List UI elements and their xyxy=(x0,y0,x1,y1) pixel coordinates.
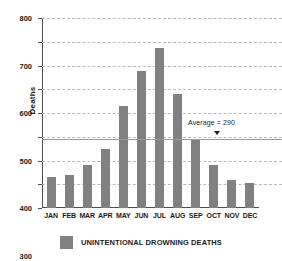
x-tick-label-may: MAY xyxy=(116,212,131,219)
drowning-deaths-bar-chart: Deaths 0100200300400500600700800 Average… xyxy=(0,0,282,261)
average-marker-icon xyxy=(214,131,220,135)
x-tick-label-jun: JUN xyxy=(135,212,149,219)
average-label: Average = 290 xyxy=(188,119,235,126)
y-tick-label-800: 800 xyxy=(19,14,32,23)
y-tick-label-500: 500 xyxy=(19,156,32,165)
bar-may xyxy=(119,106,128,208)
bar-mar xyxy=(83,165,92,208)
bar-aug xyxy=(173,94,182,208)
x-axis-labels: JANFEBMARAPRMAYJUNJULAUGSEPOCTNOVDEC xyxy=(42,212,259,226)
bars-group xyxy=(42,18,259,208)
y-tick-label-700: 700 xyxy=(19,61,32,70)
bar-sep xyxy=(191,139,200,208)
x-tick-label-jan: JAN xyxy=(44,212,58,219)
x-tick-label-oct: OCT xyxy=(207,212,221,219)
bar-dec xyxy=(245,183,254,208)
bar-oct xyxy=(209,165,218,208)
x-tick-label-aug: AUG xyxy=(170,212,185,219)
x-tick-label-apr: APR xyxy=(98,212,112,219)
chart-legend: UNINTENTIONAL DROWNING DEATHS xyxy=(60,236,222,249)
y-axis-title: Deaths xyxy=(28,71,37,131)
x-tick-label-jul: JUL xyxy=(153,212,166,219)
x-tick-label-mar: MAR xyxy=(79,212,95,219)
bar-feb xyxy=(65,175,74,208)
y-tick-0: 0 xyxy=(38,208,42,209)
y-tick-label-400: 400 xyxy=(19,204,32,213)
bar-jan xyxy=(47,177,56,208)
legend-label-drowning-deaths: UNINTENTIONAL DROWNING DEATHS xyxy=(81,238,222,247)
x-tick-label-feb: FEB xyxy=(62,212,76,219)
plot-area: 0100200300400500600700800 Average = 290 xyxy=(42,18,259,208)
x-tick-label-dec: DEC xyxy=(243,212,257,219)
bar-nov xyxy=(227,180,236,209)
average-line xyxy=(42,139,282,140)
y-tick-label-600: 600 xyxy=(19,109,32,118)
bar-apr xyxy=(101,149,110,208)
x-tick-label-nov: NOV xyxy=(224,212,239,219)
legend-swatch-drowning-deaths xyxy=(60,236,73,249)
bar-jul xyxy=(155,48,164,208)
y-tick-label-300: 300 xyxy=(19,251,32,260)
x-tick-label-sep: SEP xyxy=(189,212,203,219)
